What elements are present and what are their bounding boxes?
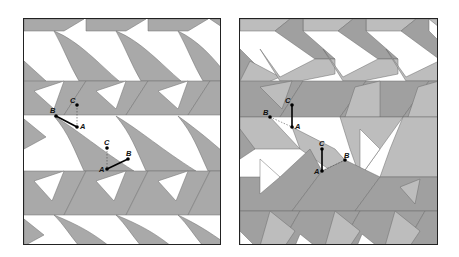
label-B-upper: B — [50, 106, 56, 115]
point-A-upper — [75, 125, 79, 129]
label-B-upper: B — [263, 108, 269, 117]
point-C-upper — [290, 103, 294, 107]
label-A-lower: A — [313, 167, 319, 176]
left-tiling-panel: B C A C B A — [23, 18, 221, 245]
label-C-lower: C — [104, 138, 110, 147]
label-B-lower: B — [126, 149, 132, 158]
label-B-lower: B — [344, 151, 350, 160]
label-C-lower: C — [319, 139, 325, 148]
point-A-upper — [290, 125, 294, 129]
point-A-lower — [320, 169, 324, 173]
label-A-upper: A — [79, 122, 85, 131]
point-B-upper — [268, 115, 272, 119]
label-A-lower: A — [98, 165, 104, 174]
right-tiling-panel: B C A C B A — [239, 18, 438, 245]
left-tiling-diagram: B C A C B A — [24, 19, 221, 245]
label-C-upper: C — [70, 96, 76, 105]
point-A-lower — [105, 167, 109, 171]
point-C-upper — [75, 103, 79, 107]
label-A-upper: A — [294, 122, 300, 131]
label-C-upper: C — [285, 96, 291, 105]
right-tiling-diagram: B C A C B A — [240, 19, 438, 245]
